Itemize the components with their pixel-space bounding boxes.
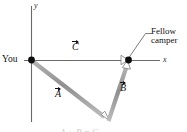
vector-c-label: C [72,39,79,52]
vector-c-letter: C [72,42,79,52]
origin-dot [28,57,35,64]
vector-a-label: A [55,86,61,99]
vector-b-line [109,67,127,121]
diagram-canvas [0,0,187,132]
origin-point-label: You [2,55,17,65]
y-axis-label: y [34,2,38,10]
vector-b-letter: B [120,83,126,93]
vector-a-line [31,60,105,117]
vector-a-letter: A [55,89,61,99]
camper-leader-line [129,34,152,58]
vector-diagram-figure: y x You Fellow camper C A B A + B = C [0,0,187,132]
x-axis-label: x [163,56,167,64]
clipped-caption: A + B = C [60,127,98,132]
vector-b-label: B [120,80,126,93]
vector-c-overbar [72,39,79,43]
vector-a-overbar [55,86,61,90]
fellow-camper-dot [125,57,132,64]
fellow-camper-label: Fellow camper [151,27,177,46]
vector-b-overbar [120,80,126,84]
fellow-camper-label-line2: camper [151,35,177,45]
